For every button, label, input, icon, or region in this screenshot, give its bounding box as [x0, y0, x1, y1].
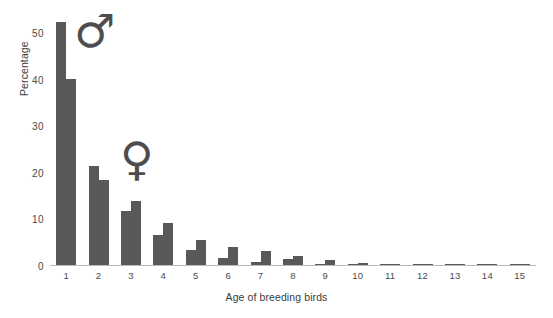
y-axis-tick-30: 30 — [10, 121, 44, 132]
bar-male-age-2 — [89, 166, 99, 266]
male-symbol-icon: ♂ — [74, 8, 115, 54]
x-axis-tick-4: 4 — [150, 270, 176, 281]
x-axis-tick-8: 8 — [280, 270, 306, 281]
bar-female-age-7 — [261, 251, 271, 266]
bar-chart-figure: Percentage 01020304050 12345678910111213… — [0, 0, 553, 318]
x-axis-tick-15: 15 — [507, 270, 533, 281]
bar-female-age-6 — [228, 247, 238, 266]
bar-female-age-3 — [131, 201, 141, 266]
x-axis-ticks: 123456789101112131415 — [50, 268, 536, 284]
bar-group — [348, 10, 368, 266]
bar-group — [186, 10, 206, 266]
x-axis-tick-2: 2 — [86, 270, 112, 281]
y-axis-tick-20: 20 — [10, 167, 44, 178]
bar-group — [283, 10, 303, 266]
bar-male-age-1 — [56, 22, 66, 266]
x-axis-tick-10: 10 — [345, 270, 371, 281]
y-axis-tick-50: 50 — [10, 28, 44, 39]
x-axis-title: Age of breeding birds — [0, 291, 553, 303]
bar-group — [380, 10, 400, 266]
bar-group — [153, 10, 173, 266]
bar-female-age-4 — [163, 223, 173, 266]
bar-group — [251, 10, 271, 266]
x-axis-tick-14: 14 — [474, 270, 500, 281]
x-axis-tick-3: 3 — [118, 270, 144, 281]
female-symbol-icon: ♀ — [120, 136, 154, 182]
x-axis-line — [50, 265, 536, 266]
y-axis-tick-40: 40 — [10, 74, 44, 85]
bar-female-age-1 — [66, 79, 76, 266]
y-axis-tick-0: 0 — [10, 261, 44, 272]
bar-group — [445, 10, 465, 266]
bar-male-age-4 — [153, 235, 163, 266]
bar-group — [477, 10, 497, 266]
y-axis-ticks: 01020304050 — [6, 0, 44, 318]
x-axis-tick-9: 9 — [312, 270, 338, 281]
bar-female-age-5 — [196, 240, 206, 266]
y-axis-tick-10: 10 — [10, 214, 44, 225]
x-axis-tick-13: 13 — [442, 270, 468, 281]
x-axis-tick-6: 6 — [215, 270, 241, 281]
x-axis-tick-1: 1 — [53, 270, 79, 281]
x-axis-tick-5: 5 — [183, 270, 209, 281]
x-axis-tick-7: 7 — [248, 270, 274, 281]
bar-group — [315, 10, 335, 266]
x-axis-tick-11: 11 — [377, 270, 403, 281]
bar-male-age-5 — [186, 250, 196, 266]
bar-male-age-3 — [121, 211, 131, 266]
x-axis-tick-12: 12 — [410, 270, 436, 281]
bar-female-age-2 — [99, 180, 109, 266]
bar-group — [413, 10, 433, 266]
bar-group — [218, 10, 238, 266]
bar-group — [510, 10, 530, 266]
